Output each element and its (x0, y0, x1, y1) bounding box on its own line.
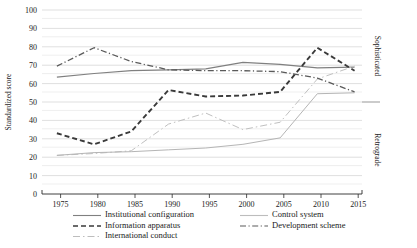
x-tick-1980: 1980 (90, 200, 106, 209)
line-chart: 100 90 80 70 60 50 40 30 20 10 0 Standar… (0, 0, 417, 248)
x-tick-2000: 2000 (239, 200, 255, 209)
legend-label-institutional-configuration: Institutional configuration (105, 209, 195, 219)
y-tick-10: 10 (29, 172, 37, 181)
zone-label-sophisticated: Sophisticated (373, 36, 382, 77)
x-tick-2015: 2015 (350, 200, 366, 209)
y-tick-0: 0 (33, 190, 37, 199)
x-tick-2010: 2010 (313, 200, 329, 209)
y-axis-title: Standardized score (4, 73, 13, 131)
y-tick-20: 20 (29, 153, 37, 162)
legend-label-information-apparatus: Information apparatus (105, 220, 180, 230)
x-axis-tick-labels: 1975 1980 1985 1990 1995 2000 2005 2010 … (53, 200, 367, 209)
x-tick-2005: 2005 (276, 200, 292, 209)
y-axis-tick-labels: 100 90 80 70 60 50 40 30 20 10 0 (25, 6, 37, 199)
y-tick-70: 70 (29, 61, 37, 70)
x-tick-1995: 1995 (201, 200, 217, 209)
zone-label-retrograde: Retrograde (373, 133, 382, 167)
x-tick-1990: 1990 (164, 200, 180, 209)
y-tick-60: 60 (29, 80, 37, 89)
y-tick-50: 50 (29, 98, 37, 107)
chart-page: 100 90 80 70 60 50 40 30 20 10 0 Standar… (0, 0, 417, 248)
x-tick-1975: 1975 (53, 200, 69, 209)
y-tick-90: 90 (29, 24, 37, 33)
y-tick-30: 30 (29, 135, 37, 144)
x-tick-1985: 1985 (127, 200, 143, 209)
y-tick-80: 80 (29, 43, 37, 52)
legend-label-international-conduct: International conduct (105, 230, 178, 240)
y-tick-100: 100 (25, 6, 37, 15)
y-tick-40: 40 (29, 116, 37, 125)
chart-legend: Institutional configuration Information … (73, 209, 346, 240)
x-axis-ticks (61, 194, 359, 198)
legend-label-control-system: Control system (272, 209, 324, 219)
legend-label-development-scheme: Development scheme (272, 220, 346, 230)
